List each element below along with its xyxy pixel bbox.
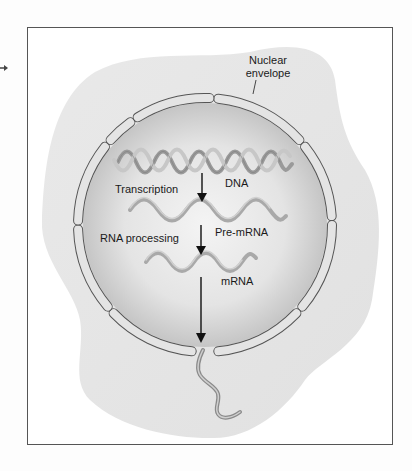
rna-processing-label: RNA processing [100, 232, 179, 245]
margin-arrow-icon [0, 65, 8, 71]
nuclear-envelope-label-line2: envelope [238, 67, 298, 80]
nucleus-illustration [0, 0, 412, 471]
dna-label: DNA [225, 177, 248, 190]
nuclear-envelope-label: Nuclear envelope [238, 54, 298, 80]
pre-mrna-label: Pre-mRNA [215, 226, 268, 239]
nucleus [83, 103, 327, 347]
transcription-label: Transcription [115, 183, 178, 196]
diagram-canvas: Nuclear envelope DNA Transcription Pre-m… [0, 0, 412, 471]
nuclear-envelope-label-line1: Nuclear [238, 54, 298, 67]
mrna-label: mRNA [221, 275, 253, 288]
